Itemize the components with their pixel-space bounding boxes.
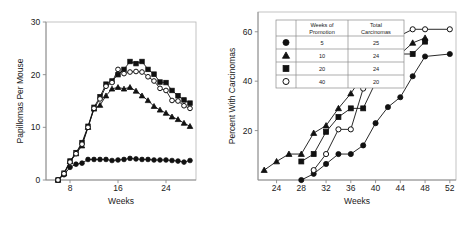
- data-point-marker: [152, 72, 156, 76]
- data-point-marker: [170, 98, 175, 103]
- series-filled-circle: [56, 156, 193, 182]
- y-axis-title: Papillomas Per Mouse: [15, 58, 25, 143]
- x-axis-title: Weeks: [108, 196, 134, 206]
- legend-total-carcinomas: 20: [373, 79, 379, 85]
- x-tick-label: 24: [161, 183, 171, 193]
- data-point-marker: [336, 115, 341, 120]
- y-tick-label: 10: [31, 122, 41, 132]
- data-point-marker: [62, 171, 67, 176]
- data-point-marker: [157, 107, 163, 112]
- legend-marker-filled-square: [283, 66, 289, 72]
- data-point-marker: [164, 158, 169, 163]
- data-point-marker: [187, 124, 193, 129]
- y-tick-label: 30: [31, 17, 41, 27]
- papillomas-chart-svg: 010203081624WeeksPapillomas Per Mouse: [0, 0, 212, 227]
- data-point-marker: [176, 99, 181, 104]
- data-point-marker: [274, 158, 280, 163]
- data-point-marker: [188, 158, 193, 163]
- data-point-marker: [164, 80, 168, 84]
- data-point-marker: [163, 110, 169, 115]
- data-point-marker: [128, 59, 132, 63]
- data-point-marker: [122, 157, 127, 162]
- data-point-marker: [348, 127, 353, 132]
- data-point-marker: [146, 157, 151, 162]
- data-point-marker: [170, 88, 174, 92]
- legend-weeks-of-promotion: 20: [319, 66, 325, 72]
- data-point-marker: [146, 74, 151, 79]
- data-point-marker: [164, 88, 169, 93]
- data-point-marker: [311, 168, 316, 173]
- y-tick-label: 20: [243, 126, 253, 136]
- data-point-marker: [299, 159, 304, 164]
- y-tick-label: 20: [31, 70, 41, 80]
- data-point-marker: [133, 88, 139, 93]
- data-point-marker: [74, 151, 79, 156]
- data-point-marker: [170, 158, 175, 163]
- data-point-marker: [175, 117, 181, 122]
- data-point-marker: [110, 80, 115, 85]
- data-point-marker: [410, 40, 416, 45]
- papillomas-chart-panel: 010203081624WeeksPapillomas Per Mouse: [0, 0, 212, 227]
- legend-header-total-line1: Total: [370, 22, 382, 28]
- data-point-marker: [86, 157, 91, 162]
- data-point-marker: [127, 85, 133, 90]
- x-tick-label: 32: [321, 183, 331, 193]
- legend-header-total-line2: Carcinomas: [361, 29, 391, 35]
- data-point-marker: [336, 127, 341, 132]
- data-point-marker: [56, 178, 61, 183]
- data-point-marker: [128, 156, 133, 161]
- data-point-marker: [134, 69, 139, 74]
- data-point-marker: [410, 52, 415, 57]
- data-point-marker: [74, 162, 79, 167]
- data-point-marker: [134, 61, 138, 65]
- data-point-marker: [140, 70, 145, 75]
- data-point-marker: [348, 151, 353, 156]
- x-tick-label: 48: [420, 183, 430, 193]
- data-point-marker: [447, 51, 452, 56]
- data-point-marker: [86, 125, 91, 130]
- data-point-marker: [336, 151, 341, 156]
- data-point-marker: [348, 91, 354, 96]
- data-point-marker: [361, 106, 366, 111]
- x-tick-label: 28: [297, 183, 307, 193]
- data-point-marker: [134, 157, 139, 162]
- data-point-marker: [104, 157, 109, 162]
- data-point-marker: [182, 98, 186, 102]
- data-point-marker: [188, 101, 192, 105]
- x-tick-label: 40: [371, 183, 381, 193]
- y-tick-label: 40: [243, 76, 253, 86]
- data-point-marker: [422, 27, 427, 32]
- data-point-marker: [311, 152, 316, 157]
- data-point-marker: [324, 129, 329, 134]
- data-point-marker: [311, 130, 317, 135]
- data-point-marker: [158, 86, 163, 91]
- data-point-marker: [92, 157, 97, 162]
- data-point-marker: [188, 106, 193, 111]
- legend-weeks-of-promotion: 5: [320, 40, 323, 46]
- legend-marker-open-circle: [283, 78, 289, 84]
- x-tick-label: 44: [396, 183, 406, 193]
- x-axis-title: Weeks: [344, 196, 370, 206]
- legend-header-weeks-line1: Weeks of: [310, 22, 334, 28]
- y-tick-label: 0: [36, 175, 41, 185]
- data-point-marker: [158, 158, 163, 163]
- data-point-marker: [182, 160, 187, 165]
- x-tick-label: 24: [272, 183, 282, 193]
- data-point-marker: [373, 121, 378, 126]
- x-tick-label: 52: [445, 183, 455, 193]
- data-point-marker: [176, 159, 181, 164]
- data-point-marker: [110, 158, 115, 163]
- data-point-marker: [152, 158, 157, 163]
- figure-container: 010203081624WeeksPapillomas Per Mouse 20…: [0, 0, 475, 227]
- carcinomas-chart-panel: 2040602428323640444852WeeksPercent With …: [212, 0, 475, 227]
- data-point-marker: [98, 157, 103, 162]
- x-tick-label: 36: [346, 183, 356, 193]
- data-point-marker: [261, 167, 267, 172]
- legend-table: Weeks ofPromotionTotalCarcinomas52510242…: [276, 20, 404, 88]
- legend-header-weeks-line2: Promotion: [309, 29, 335, 35]
- legend-total-carcinomas: 25: [373, 40, 379, 46]
- data-point-marker: [176, 93, 180, 97]
- y-axis-title: Percent With Carcinomas: [227, 48, 237, 144]
- legend-weeks-of-promotion: 10: [319, 53, 325, 59]
- legend-total-carcinomas: 24: [373, 66, 379, 72]
